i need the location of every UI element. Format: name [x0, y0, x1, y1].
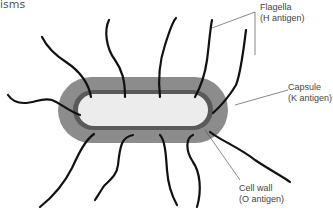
- cell-wall-label-name: Cell wall: [239, 183, 284, 194]
- cell-wall-label: Cell wall (O antigen): [239, 183, 284, 205]
- cytoplasm: [78, 94, 208, 126]
- flagella-label-antigen: (H antigen): [260, 13, 305, 24]
- cell-wall-label-antigen: (O antigen): [239, 194, 284, 205]
- capsule-label: Capsule (K antigen): [288, 82, 332, 104]
- bacterium-diagram: [0, 0, 333, 210]
- capsule-label-antigen: (K antigen): [288, 93, 332, 104]
- flagella-label-name: Flagella: [260, 2, 305, 13]
- flagella-label: Flagella (H antigen): [260, 2, 305, 24]
- capsule-label-name: Capsule: [288, 82, 332, 93]
